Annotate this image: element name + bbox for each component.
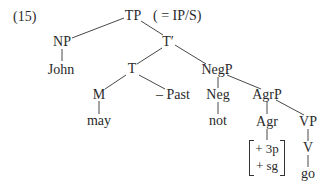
node-v: V xyxy=(303,141,313,155)
node-tp: TP xyxy=(125,9,141,23)
node-np: NP xyxy=(53,35,71,49)
tp-annotation: ( = IP/S) xyxy=(153,9,201,23)
node-t-bar: T′ xyxy=(162,35,174,49)
feature-person: + 3p xyxy=(249,142,285,155)
edge-tp-tbar xyxy=(141,21,163,35)
agr-feature-matrix: + 3p + sg xyxy=(249,140,285,174)
node-t: T xyxy=(128,62,137,76)
node-agrp: AgrP xyxy=(252,88,282,102)
node-vp: VP xyxy=(299,115,317,129)
node-may: may xyxy=(87,114,111,128)
node-m: M xyxy=(93,88,105,102)
feature-number: + sg xyxy=(249,159,285,172)
node-john: John xyxy=(48,63,74,77)
edge-tp-np xyxy=(72,18,124,38)
node-past: – Past xyxy=(156,88,190,102)
node-go: go xyxy=(301,167,315,181)
edge-agrp-vp xyxy=(276,100,304,115)
node-neg: Neg xyxy=(206,88,229,102)
edge-t-m xyxy=(105,75,126,89)
node-not: not xyxy=(209,114,227,128)
example-number: (15) xyxy=(13,10,36,24)
node-agr: Agr xyxy=(256,115,278,129)
node-negp: NegP xyxy=(201,63,232,77)
edge-tbar-t xyxy=(137,48,162,64)
